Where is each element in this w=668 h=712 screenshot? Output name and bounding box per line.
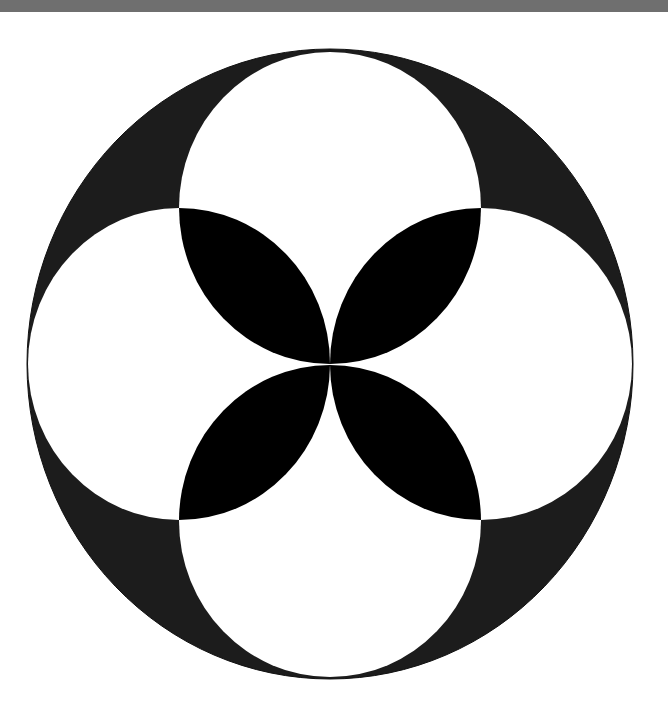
rosette-figure <box>0 0 668 712</box>
